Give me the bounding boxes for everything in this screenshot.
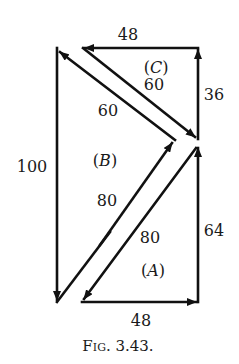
label-b-60: 60 (98, 101, 118, 120)
label-a-80: 80 (140, 228, 160, 247)
force-triangle-diagram: 48 (C) 60 36 60 (B) 100 80 80 64 (A) 48 … (0, 0, 239, 364)
label-b: (B) (93, 151, 117, 170)
label-b-80: 80 (97, 191, 117, 210)
label-top-48: 48 (118, 25, 138, 44)
label-right-36: 36 (204, 85, 224, 104)
label-a: (A) (141, 261, 165, 280)
label-right-64: 64 (204, 221, 224, 240)
triangle-c (83, 48, 198, 139)
label-c-60: 60 (144, 75, 164, 94)
label-bottom-48: 48 (131, 311, 151, 330)
label-left-100: 100 (17, 157, 48, 176)
side-c-60-arrow (83, 48, 195, 137)
figure-caption: FIG. 3.43. (82, 337, 153, 355)
